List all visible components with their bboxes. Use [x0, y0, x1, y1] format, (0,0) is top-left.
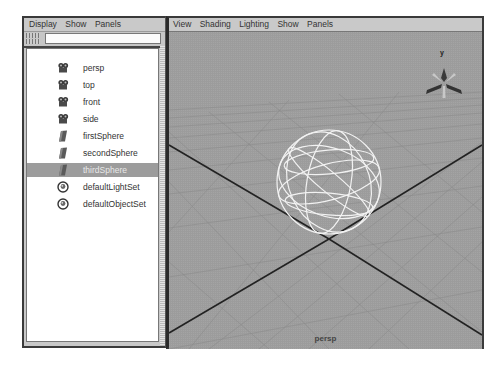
camera-icon — [57, 113, 69, 125]
transform-icon — [57, 130, 69, 142]
menu-show[interactable]: Show — [277, 19, 298, 29]
menu-view[interactable]: View — [173, 19, 191, 29]
outliner-scrollbar[interactable] — [160, 46, 165, 346]
outliner-item-label: defaultLightSet — [83, 180, 140, 194]
outliner-item-label: top — [83, 78, 95, 92]
menu-panels[interactable]: Panels — [307, 19, 333, 29]
outliner-item-front[interactable]: front — [27, 95, 158, 109]
outliner-item-thirdSphere[interactable]: thirdSphere — [27, 163, 158, 177]
transform-icon — [57, 147, 69, 159]
camera-icon — [57, 62, 69, 74]
camera-name-label: persp — [169, 334, 482, 343]
menu-panels[interactable]: Panels — [95, 19, 121, 29]
transform-icon — [57, 164, 69, 176]
perspective-viewport[interactable]: View Shading Lighting Show Panels — [166, 16, 484, 349]
menu-show[interactable]: Show — [65, 19, 86, 29]
outliner-item-label: secondSphere — [83, 146, 138, 160]
outliner-item-secondSphere[interactable]: secondSphere — [27, 146, 158, 160]
set-icon — [57, 198, 69, 210]
menu-lighting[interactable]: Lighting — [239, 19, 269, 29]
outliner-item-side[interactable]: side — [27, 112, 158, 126]
outliner-item-label: persp — [83, 61, 104, 75]
outliner-item-label: thirdSphere — [83, 163, 127, 177]
outliner-item-firstSphere[interactable]: firstSphere — [27, 129, 158, 143]
outliner-panel: Display Show Panels persp top — [22, 16, 166, 348]
set-icon — [57, 181, 69, 193]
viewport-scene[interactable]: y persp — [169, 32, 482, 347]
outliner-item-label: firstSphere — [83, 129, 124, 143]
axis-gizmo-label: y — [440, 49, 444, 56]
outliner-item-defaultObjectSet[interactable]: defaultObjectSet — [27, 197, 158, 211]
viewport-menubar: View Shading Lighting Show Panels — [169, 18, 482, 32]
outliner-filter-input[interactable] — [45, 33, 161, 44]
outliner-menubar: Display Show Panels — [24, 18, 165, 32]
filter-toggle-bottom-button[interactable] — [26, 39, 40, 44]
outliner-item-label: side — [83, 112, 99, 126]
menu-shading[interactable]: Shading — [200, 19, 231, 29]
outliner-item-defaultLightSet[interactable]: defaultLightSet — [27, 180, 158, 194]
outliner-item-top[interactable]: top — [27, 78, 158, 92]
camera-icon — [57, 79, 69, 91]
outliner-list: persp top front side — [26, 48, 159, 342]
outliner-filter-row — [24, 32, 165, 48]
filter-buttons — [26, 33, 42, 45]
menu-display[interactable]: Display — [29, 19, 57, 29]
outliner-item-label: front — [83, 95, 100, 109]
outliner-item-label: defaultObjectSet — [83, 197, 146, 211]
filter-toggle-top-button[interactable] — [26, 33, 40, 38]
camera-icon — [57, 96, 69, 108]
outliner-item-persp[interactable]: persp — [27, 61, 158, 75]
grid-and-objects — [169, 32, 482, 349]
